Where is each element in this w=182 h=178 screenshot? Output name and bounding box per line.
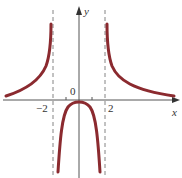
tick-label-pos2: 2: [108, 102, 114, 114]
y-axis-arrow-icon: [76, 6, 82, 15]
origin-label: 0: [70, 85, 76, 97]
y-axis-label: y: [83, 5, 89, 17]
graph: y x 0 −2 2: [0, 0, 182, 178]
curve-left-branch: [6, 24, 51, 96]
curve-right-branch: [107, 24, 174, 96]
x-axis-arrow-icon: [172, 97, 180, 103]
x-axis-label: x: [171, 106, 177, 118]
tick-label-neg2: −2: [36, 102, 48, 114]
